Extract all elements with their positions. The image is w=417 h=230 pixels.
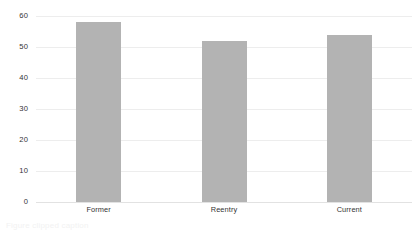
y-axis-tick-label: 20 xyxy=(6,136,28,144)
gridline xyxy=(36,16,412,17)
y-axis-tick-label: 40 xyxy=(6,74,28,82)
bar-reentry[interactable] xyxy=(202,41,247,202)
y-axis-tick-label: 30 xyxy=(6,105,28,113)
y-axis-tick-label: 50 xyxy=(6,43,28,51)
axis-baseline xyxy=(36,202,412,203)
clipped-caption: Figure clipped caption xyxy=(0,222,417,230)
caption-text: Figure clipped caption xyxy=(6,222,89,230)
y-axis-tick-label: 60 xyxy=(6,12,28,20)
x-axis-label-current: Current xyxy=(309,205,389,214)
y-axis-tick-label: 0 xyxy=(6,198,28,206)
x-axis-label-former: Former xyxy=(59,205,139,214)
bar-current[interactable] xyxy=(327,35,372,202)
x-axis-label-reentry: Reentry xyxy=(184,205,264,214)
y-axis-tick-label: 10 xyxy=(6,167,28,175)
plot-area xyxy=(36,16,412,202)
bar-chart-figure: 0102030405060 FormerReentryCurrent Figur… xyxy=(0,0,417,230)
bar-former[interactable] xyxy=(76,22,121,202)
